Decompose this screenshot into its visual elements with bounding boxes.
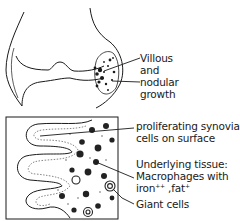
label-line: and [140,64,179,76]
synovial-cells-label: proliferating synovial cells on surface [136,120,240,144]
underlying-tissue-label: Underlying tissue: Macrophages with iron… [136,158,229,194]
label-line: Underlying tissue: [136,158,229,170]
label-line: Macrophages with [136,170,229,182]
fat-text: ,fat [165,182,185,194]
joint-illustration [6,8,123,108]
villonodular-mass [94,52,119,94]
label-line: Villous [140,52,179,64]
label-line: proliferating synovial [136,120,240,132]
label-line: nodular [140,76,179,88]
fat-superscript: + [185,182,190,189]
histology-illustration [6,117,118,219]
label-line: Giant cells [136,198,189,210]
villous-growth-label: Villous and nodular growth [140,52,179,100]
label-line: cells on surface [136,132,240,144]
label-line: growth [140,88,179,100]
iron-superscript: ++ [155,182,165,189]
iron-text: iron [136,182,155,194]
label-line: iron++ ,fat+ [136,182,229,194]
giant-cells-label: Giant cells [136,198,189,210]
